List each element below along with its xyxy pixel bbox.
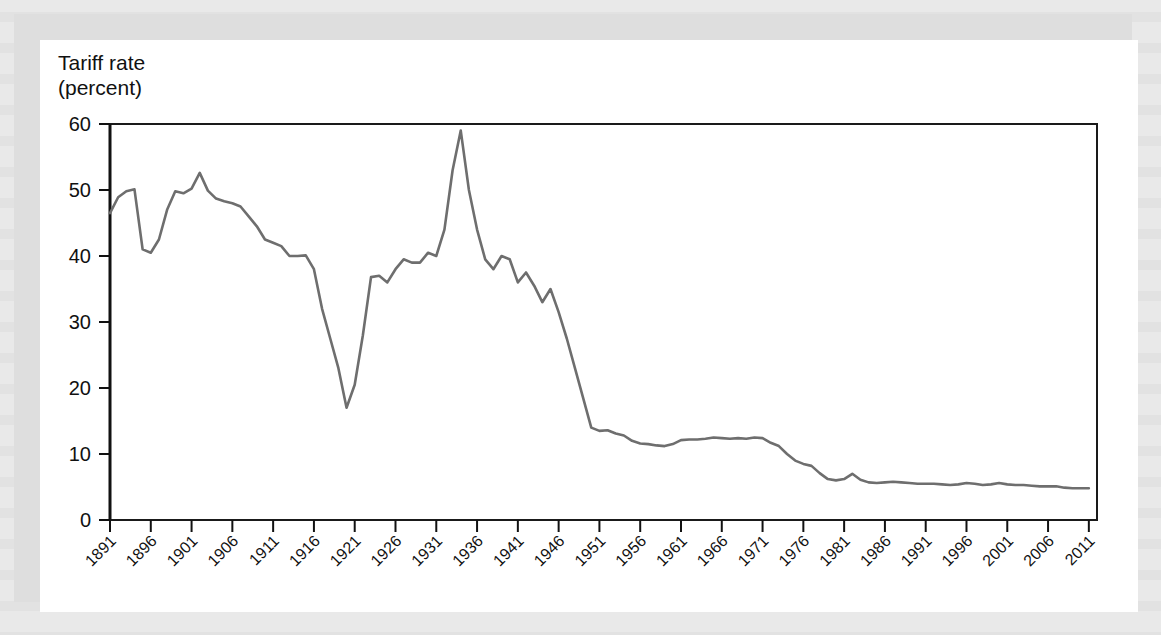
x-tick-label: 1891 — [82, 532, 119, 569]
y-axis-ticks — [99, 124, 110, 520]
x-tick-label: 1936 — [449, 532, 486, 569]
y-tick-label: 50 — [69, 179, 91, 201]
y-tick-label: 30 — [69, 311, 91, 333]
x-tick-label: 1971 — [734, 532, 771, 569]
y-tick-label: 0 — [80, 509, 91, 531]
x-tick-label: 1946 — [531, 532, 568, 569]
x-tick-label: 1926 — [367, 532, 404, 569]
y-tick-label: 60 — [69, 113, 91, 135]
x-tick-label: 1941 — [490, 532, 527, 569]
x-tick-label: 1961 — [653, 532, 690, 569]
x-tick-label: 1986 — [857, 532, 894, 569]
x-tick-label: 1956 — [612, 532, 649, 569]
x-tick-label: 1896 — [123, 532, 160, 569]
tariff-rate-line-chart: 0102030405060 18911896190119061911191619… — [0, 0, 1161, 635]
x-tick-label: 1991 — [898, 532, 935, 569]
x-tick-label: 2006 — [1020, 532, 1057, 569]
x-axis-ticks — [110, 520, 1089, 532]
data-line-series — [110, 131, 1089, 489]
y-tick-label: 40 — [69, 245, 91, 267]
x-tick-label: 1911 — [246, 532, 282, 568]
series-line — [110, 131, 1089, 489]
x-tick-label: 1996 — [938, 532, 975, 569]
y-tick-label: 10 — [69, 443, 91, 465]
x-tick-label: 1901 — [164, 532, 201, 569]
axis-frame — [110, 124, 1097, 520]
x-tick-label: 1951 — [571, 532, 608, 569]
x-tick-label: 1916 — [286, 532, 323, 569]
x-tick-label: 2001 — [979, 532, 1016, 569]
x-tick-label: 1931 — [408, 532, 445, 569]
y-tick-label: 20 — [69, 377, 91, 399]
x-tick-label: 1906 — [204, 532, 241, 569]
y-axis-labels: 0102030405060 — [69, 113, 91, 531]
x-tick-label: 2011 — [1062, 532, 1098, 568]
x-tick-label: 1981 — [816, 532, 853, 569]
x-axis-labels: 1891189619011906191119161921192619311936… — [82, 532, 1098, 569]
x-tick-label: 1966 — [694, 532, 731, 569]
x-tick-label: 1976 — [775, 532, 812, 569]
plot-area: 0102030405060 18911896190119061911191619… — [0, 0, 1161, 635]
scanned-page: Tariff rate (percent) 0102030405060 1891… — [0, 0, 1161, 635]
x-tick-label: 1921 — [327, 532, 364, 569]
